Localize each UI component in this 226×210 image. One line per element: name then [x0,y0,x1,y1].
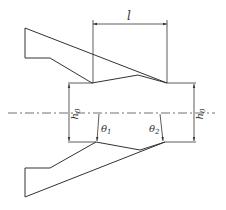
svg-text:h0: h0 [69,108,82,119]
upper-blade [25,28,167,83]
reference-lines [68,83,196,142]
length-label: l [127,9,131,23]
height-label-left: h0 [69,108,82,119]
angle1-label: θ1 [101,123,112,136]
height-label-right: h0 [194,108,207,119]
lower-blade [25,142,165,197]
svg-text:h0: h0 [194,108,207,119]
angle2-label: θ2 [149,123,160,136]
diagram-canvas: l h0 h0 θ1 θ2 [0,0,226,210]
length-dimension [93,20,167,83]
